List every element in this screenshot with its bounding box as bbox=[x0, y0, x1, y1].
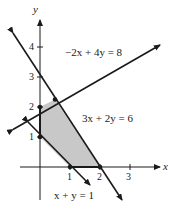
y-axis-label: y bbox=[32, 3, 38, 15]
y-tick-1: 1 bbox=[29, 131, 34, 142]
x-tick-2: 2 bbox=[97, 171, 102, 182]
y-tick-3: 3 bbox=[29, 71, 34, 82]
x-tick-1: 1 bbox=[67, 171, 72, 182]
equation-label-2: 3x + 2y = 6 bbox=[82, 112, 133, 124]
equation-label-3: x + y = 1 bbox=[54, 189, 94, 201]
equation-label-1: −2x + 4y = 8 bbox=[65, 46, 123, 58]
graph-canvas: y x 1 2 3 1 2 3 4 −2x + 4y = 8 3x + 2y =… bbox=[0, 0, 173, 219]
y-tick-2: 2 bbox=[29, 101, 34, 112]
y-tick-4: 4 bbox=[29, 41, 34, 52]
x-tick-3: 3 bbox=[126, 171, 131, 182]
x-axis-label: x bbox=[162, 160, 168, 172]
